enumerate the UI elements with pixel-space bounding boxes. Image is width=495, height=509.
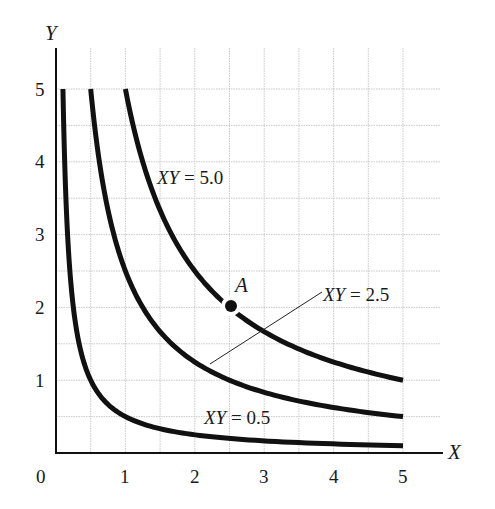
x-axis-label: X xyxy=(447,440,462,464)
x-tick-labels: 1 2 3 4 5 xyxy=(120,466,408,487)
y-tick-3: 3 xyxy=(35,224,45,245)
x-tick-1: 1 xyxy=(120,466,130,487)
curve-xy-0-5 xyxy=(63,89,403,446)
y-tick-labels: 1 2 3 4 5 xyxy=(35,79,45,391)
x-tick-2: 2 xyxy=(190,466,200,487)
indifference-curve-chart: A Y X 0 1 2 3 4 5 1 2 3 4 5 XY = 5.0 XY … xyxy=(0,0,495,509)
grid xyxy=(56,48,440,453)
x-tick-3: 3 xyxy=(259,466,269,487)
y-tick-4: 4 xyxy=(35,151,45,172)
x-tick-4: 4 xyxy=(329,466,339,487)
curves xyxy=(63,89,403,446)
y-tick-2: 2 xyxy=(35,297,45,318)
y-tick-5: 5 xyxy=(35,79,45,100)
y-axis-label: Y xyxy=(45,21,59,45)
curve-label-xy-0-5: XY = 0.5 xyxy=(203,407,270,428)
origin-label: 0 xyxy=(36,466,46,487)
point-a-marker xyxy=(225,300,237,312)
curve-label-xy-5: XY = 5.0 xyxy=(156,167,223,188)
y-tick-1: 1 xyxy=(35,370,45,391)
point-a-label: A xyxy=(233,273,248,297)
x-tick-5: 5 xyxy=(398,466,408,487)
curve-label-xy-2-5: XY = 2.5 xyxy=(322,284,389,305)
